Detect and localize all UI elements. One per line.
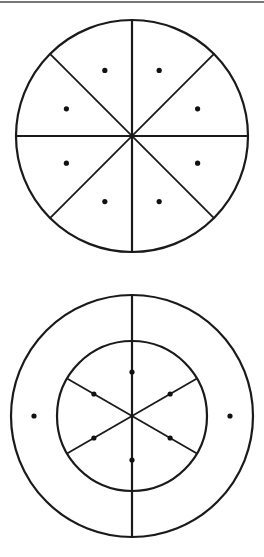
ring-sector-dot [227,413,232,418]
inner-sector-dot [168,435,173,440]
sector-dot [195,106,200,111]
fraction-circles-svg [0,0,264,557]
sector-dot [157,199,162,204]
inner-sector-dot [91,391,96,396]
figure-root [0,0,264,557]
sector-dot [64,161,69,166]
inner-sector-dot [129,369,134,374]
sector-dot [157,68,162,73]
inner-sector-dot [129,457,134,462]
inner-sector-dot [91,435,96,440]
figure-eighths-circle [16,20,248,252]
sector-dot [102,199,107,204]
sector-dot [64,106,69,111]
inner-sector-dot [168,391,173,396]
sector-dot [195,161,200,166]
eighths-sector-dividers [16,20,248,252]
ring-sector-dot [31,413,36,418]
figure-annulus-sixths [11,295,253,537]
sector-dot [102,68,107,73]
